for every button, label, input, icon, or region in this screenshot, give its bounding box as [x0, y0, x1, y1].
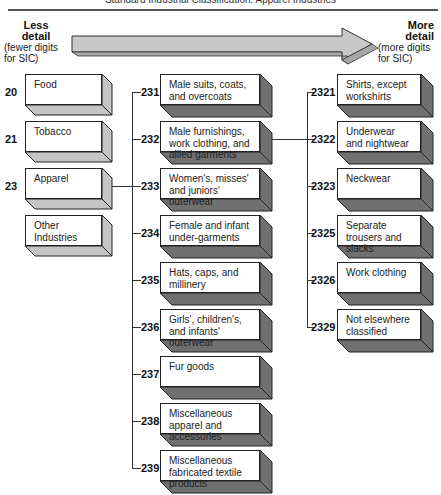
four-digit-code: 2321 [311, 86, 335, 98]
box-label: Shirts, except workshirts [337, 74, 421, 105]
box-label: Female and infant under-garments [160, 215, 260, 246]
box-label: Not elsewhere classified [337, 309, 421, 340]
detail-arrow-icon [70, 26, 380, 68]
four-digit-code: 2323 [311, 180, 335, 192]
title-rule [8, 9, 438, 11]
box-label: Fur goods [160, 356, 260, 387]
box-label: Food [25, 74, 102, 105]
box-label: Hats, caps, and millinery [160, 262, 260, 293]
box-label: Underwear and nightwear [337, 121, 421, 152]
three-digit-code: 233 [141, 180, 159, 192]
four-digit-code: 2326 [311, 274, 335, 286]
box-label: Women's, misses' and juniors' outerwear [160, 168, 260, 199]
box-label: Male suits, coats, and overcoats [160, 74, 260, 105]
box-label: Neckwear [337, 168, 421, 199]
box-label: Miscellaneous apparel and accessories [160, 403, 260, 434]
three-digit-code: 237 [141, 368, 159, 380]
bracket-tick [132, 233, 141, 234]
figure-title: Standard Industrial Classification: Appa… [0, 0, 441, 5]
two-digit-code: 23 [5, 180, 17, 192]
bracket-tick [132, 186, 141, 187]
four-digit-code: 2322 [311, 133, 335, 145]
box-label: Other Industries [25, 215, 102, 246]
three-digit-code: 239 [141, 462, 159, 474]
box-label: Male furnishings, work clothing, and all… [160, 121, 260, 152]
bracket-tick [132, 374, 141, 375]
less-detail-label: Less detail (fewer digits for SIC) [4, 20, 68, 64]
bracket-tick [132, 280, 141, 281]
four-digit-bracket [307, 92, 308, 328]
box-label: Miscellaneous fabricated textile product… [160, 450, 260, 481]
bracket-tick [132, 92, 141, 93]
box-label: Apparel [25, 168, 102, 199]
box-label: Work clothing [337, 262, 421, 293]
connector-232-to-2322 [272, 139, 308, 140]
bracket-tick [132, 139, 141, 140]
three-digit-code: 236 [141, 321, 159, 333]
bracket-tick [132, 327, 141, 328]
three-digit-code: 235 [141, 274, 159, 286]
box-label: Girls', children's, and infants' outerwe… [160, 309, 260, 340]
bracket-tick [132, 421, 141, 422]
three-digit-code: 234 [141, 227, 159, 239]
more-detail-label: More detail (more digits for SIC) [378, 20, 440, 64]
four-digit-code: 2329 [311, 321, 335, 333]
two-digit-code: 20 [5, 86, 17, 98]
three-digit-code: 232 [141, 133, 159, 145]
two-digit-code: 21 [5, 133, 17, 145]
three-digit-code: 238 [141, 415, 159, 427]
box-label: Tobacco [25, 121, 102, 152]
three-digit-code: 231 [141, 86, 159, 98]
box-label: Separate trousers and slacks [337, 215, 421, 246]
bracket-tick [132, 468, 141, 469]
four-digit-code: 2325 [311, 227, 335, 239]
